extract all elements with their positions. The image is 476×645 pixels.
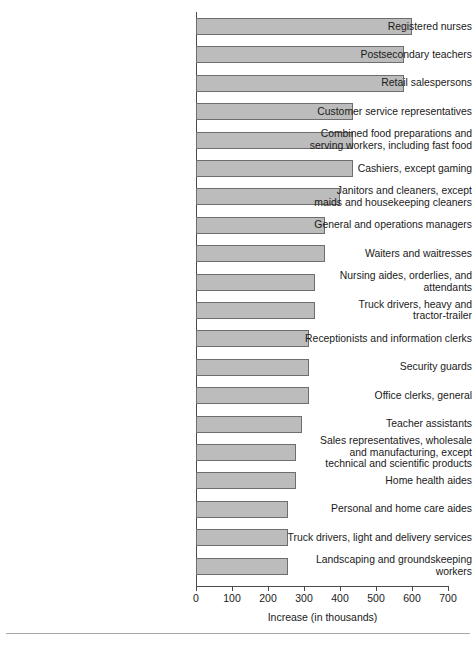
x-tick — [196, 586, 197, 591]
category-label: Janitors and cleaners, exceptmaids and h… — [286, 185, 476, 209]
category-label: Office clerks, general — [286, 390, 476, 402]
bar — [196, 501, 288, 518]
x-axis-title: Increase (in thousands) — [196, 611, 449, 623]
bar — [196, 472, 296, 489]
bar — [196, 444, 296, 461]
category-label: Cashiers, except gaming — [286, 163, 476, 175]
category-label: Customer service representatives — [286, 106, 476, 118]
category-label-line: Waiters and waitresses — [286, 248, 472, 260]
x-tick — [376, 586, 377, 591]
category-label: Retail salespersons — [286, 77, 476, 89]
x-tick — [268, 586, 269, 591]
category-label-line: Landscaping and groundskeeping — [286, 554, 472, 566]
category-label: Nursing aides, orderlies, andattendants — [286, 270, 476, 294]
category-label: Receptionists and information clerks — [286, 333, 476, 345]
x-tick — [304, 586, 305, 591]
category-label-line: maids and housekeeping cleaners — [286, 197, 472, 209]
category-label-line: Sales representatives, wholesale — [286, 435, 472, 447]
category-label-line: Receptionists and information clerks — [286, 333, 472, 345]
category-label: Combined food preparations andserving wo… — [286, 128, 476, 152]
category-label-line: Security guards — [286, 361, 472, 373]
x-tick-label: 200 — [248, 592, 288, 604]
x-tick-label: 500 — [356, 592, 396, 604]
category-label: Teacher assistants — [286, 418, 476, 430]
category-label-line: Postsecondary teachers — [286, 49, 472, 61]
category-label-line: Office clerks, general — [286, 390, 472, 402]
category-label-line: Customer service representatives — [286, 106, 472, 118]
x-tick-label: 600 — [392, 592, 432, 604]
category-label: Sales representatives, wholesaleand manu… — [286, 435, 476, 470]
bar — [196, 558, 288, 575]
category-label-line: Home health aides — [286, 475, 472, 487]
category-label: Security guards — [286, 361, 476, 373]
x-tick — [232, 586, 233, 591]
category-label-line: Truck drivers, heavy and — [286, 299, 472, 311]
category-label: Waiters and waitresses — [286, 248, 476, 260]
category-label-line: Nursing aides, orderlies, and — [286, 270, 472, 282]
category-label-line: Combined food preparations and — [286, 128, 472, 140]
category-label-line: serving workers, including fast food — [286, 140, 472, 152]
category-label: Personal and home care aides — [286, 503, 476, 515]
category-label-line: Truck drivers, light and delivery servic… — [286, 532, 472, 544]
x-tick-label: 400 — [320, 592, 360, 604]
x-tick-label: 700 — [428, 592, 468, 604]
category-label-line: Personal and home care aides — [286, 503, 472, 515]
category-label: General and operations managers — [286, 219, 476, 231]
x-tick-label: 0 — [176, 592, 216, 604]
category-label: Home health aides — [286, 475, 476, 487]
x-tick — [340, 586, 341, 591]
category-label-line: Retail salespersons — [286, 77, 472, 89]
category-label-line: Janitors and cleaners, except — [286, 185, 472, 197]
x-tick — [448, 586, 449, 591]
category-label-line: technical and scientific products — [286, 458, 472, 470]
category-label-line: Registered nurses — [286, 21, 472, 33]
category-label: Landscaping and groundskeepingworkers — [286, 554, 476, 578]
category-label-line: attendants — [286, 282, 472, 294]
category-label: Truck drivers, heavy andtractor-trailer — [286, 299, 476, 323]
category-label-line: tractor-trailer — [286, 310, 472, 322]
bar — [196, 529, 288, 546]
category-label-line: General and operations managers — [286, 219, 472, 231]
employment-growth-bar-chart: 0100200300400500600700 Registered nurses… — [0, 0, 476, 645]
x-tick-label: 100 — [212, 592, 252, 604]
category-label-line: workers — [286, 566, 472, 578]
footer-divider — [6, 633, 470, 634]
x-tick-label: 300 — [284, 592, 324, 604]
category-label: Postsecondary teachers — [286, 49, 476, 61]
category-label-line: Teacher assistants — [286, 418, 472, 430]
category-label: Truck drivers, light and delivery servic… — [286, 532, 476, 544]
x-tick — [412, 586, 413, 591]
category-label-line: Cashiers, except gaming — [286, 163, 472, 175]
category-label-line: and manufacturing, except — [286, 447, 472, 459]
category-label: Registered nurses — [286, 21, 476, 33]
